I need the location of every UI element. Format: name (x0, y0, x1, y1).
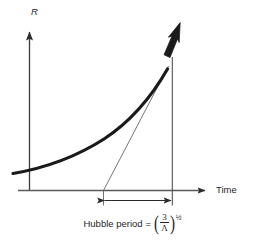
fraction: 3 Λ (160, 213, 169, 234)
right-paren: ) (170, 216, 175, 231)
exponent-one-half: ½ (176, 214, 182, 221)
fraction-denominator: Λ (160, 224, 169, 233)
caption-equals-sign: = (146, 219, 152, 229)
figure-canvas (0, 0, 265, 249)
hubble-period-figure: R Time Hubble period = ( 3 Λ ) ½ (0, 0, 265, 249)
x-axis-label: Time (216, 185, 237, 195)
left-paren: ( (154, 216, 159, 231)
fraction-expression: ( 3 Λ ) ½ (153, 213, 181, 234)
caption-lead-text: Hubble period (83, 219, 142, 229)
y-axis-label: R (31, 7, 38, 17)
hubble-period-caption: Hubble period = ( 3 Λ ) ½ (0, 213, 265, 234)
expansion-curve (13, 23, 180, 174)
fraction-numerator: 3 (161, 213, 168, 222)
